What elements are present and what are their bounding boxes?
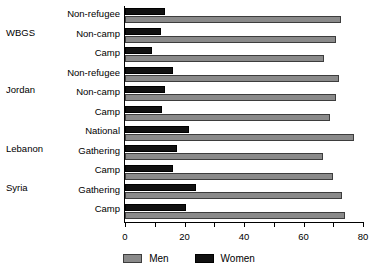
x-axis-tick bbox=[155, 222, 156, 227]
bar-row bbox=[125, 144, 363, 162]
y-axis-labels: WBGS Jordan Lebanon Syria Non-refugee No… bbox=[0, 6, 122, 222]
x-axis-tick bbox=[363, 222, 364, 227]
bar-women bbox=[125, 28, 161, 35]
legend-item-women: Women bbox=[195, 253, 255, 264]
category-label-6: National bbox=[85, 126, 120, 136]
bar-women bbox=[125, 165, 173, 172]
category-label-2: Camp bbox=[95, 48, 120, 58]
bar-row bbox=[125, 85, 363, 103]
bar-women bbox=[125, 67, 173, 74]
x-axis-tick bbox=[185, 222, 186, 227]
group-label-lebanon: Lebanon bbox=[6, 144, 43, 154]
category-label-4: Non-camp bbox=[76, 87, 120, 97]
bar-men bbox=[125, 55, 324, 62]
bar-men bbox=[125, 212, 345, 219]
bar-row bbox=[125, 46, 363, 64]
x-axis-tick-label: 80 bbox=[358, 231, 369, 242]
bar-row bbox=[125, 203, 363, 221]
legend-item-men: Men bbox=[123, 253, 168, 264]
group-label-wbgs: WBGS bbox=[6, 28, 35, 38]
bar-row bbox=[125, 105, 363, 123]
bar-row bbox=[125, 183, 363, 201]
bar-men bbox=[125, 192, 342, 199]
legend-label-men: Men bbox=[149, 253, 168, 264]
x-axis-tick bbox=[333, 222, 334, 227]
chart-legend: Men Women bbox=[0, 253, 378, 264]
bar-women bbox=[125, 106, 162, 113]
bar-women bbox=[125, 47, 152, 54]
bar-women bbox=[125, 126, 189, 133]
x-axis-tick-label: 0 bbox=[122, 231, 127, 242]
category-label-8: Camp bbox=[95, 165, 120, 175]
bar-row bbox=[125, 7, 363, 25]
bar-men bbox=[125, 16, 341, 23]
bar-men bbox=[125, 153, 323, 160]
category-label-0: Non-refugee bbox=[67, 9, 120, 19]
x-axis-tick bbox=[244, 222, 245, 227]
bar-row bbox=[125, 125, 363, 143]
legend-swatch-women bbox=[195, 254, 214, 263]
bar-women bbox=[125, 8, 165, 15]
bar-men bbox=[125, 36, 336, 43]
legend-label-women: Women bbox=[221, 253, 255, 264]
bar-women bbox=[125, 145, 177, 152]
category-label-9: Gathering bbox=[78, 185, 120, 195]
bar-men bbox=[125, 94, 336, 101]
category-label-7: Gathering bbox=[78, 146, 120, 156]
x-axis-tick-label: 20 bbox=[179, 231, 190, 242]
x-axis-tick bbox=[125, 222, 126, 227]
x-axis-tick bbox=[304, 222, 305, 227]
grouped-bar-chart: WBGS Jordan Lebanon Syria Non-refugee No… bbox=[0, 0, 378, 276]
legend-swatch-men bbox=[123, 254, 142, 263]
category-label-10: Camp bbox=[95, 204, 120, 214]
category-label-3: Non-refugee bbox=[67, 68, 120, 78]
plot-area: 020406080 bbox=[124, 6, 363, 223]
bar-row bbox=[125, 66, 363, 84]
category-label-1: Non-camp bbox=[76, 29, 120, 39]
bar-row bbox=[125, 164, 363, 182]
bar-row bbox=[125, 27, 363, 45]
bar-women bbox=[125, 184, 196, 191]
x-axis-tick-label: 60 bbox=[298, 231, 309, 242]
bar-women bbox=[125, 86, 165, 93]
x-axis-tick-label: 40 bbox=[239, 231, 250, 242]
group-label-jordan: Jordan bbox=[6, 85, 35, 95]
category-label-5: Camp bbox=[95, 107, 120, 117]
group-label-syria: Syria bbox=[6, 183, 28, 193]
bar-men bbox=[125, 75, 339, 82]
bar-women bbox=[125, 204, 186, 211]
x-axis-tick bbox=[274, 222, 275, 227]
x-axis-tick bbox=[214, 222, 215, 227]
bar-men bbox=[125, 134, 354, 141]
bar-men bbox=[125, 173, 333, 180]
bar-men bbox=[125, 114, 330, 121]
